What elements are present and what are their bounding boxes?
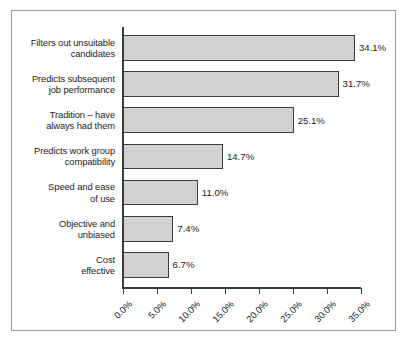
bar-chart-plot-area: 0.0%5.0%10.0%15.0%20.0%25.0%30.0%35.0% F… bbox=[12, 11, 397, 332]
x-axis-tick bbox=[361, 288, 362, 294]
bar bbox=[123, 71, 339, 97]
bar bbox=[123, 107, 294, 133]
category-label: Filters out unsuitable candidates bbox=[31, 37, 115, 59]
bar bbox=[123, 180, 198, 206]
bar-value-label: 25.1% bbox=[298, 115, 325, 126]
bar bbox=[123, 252, 169, 278]
x-axis-tick bbox=[327, 288, 328, 294]
x-axis-tick bbox=[259, 288, 260, 294]
category-label: Cost effective bbox=[81, 254, 115, 276]
bar-value-label: 11.0% bbox=[202, 187, 229, 198]
x-axis-tick bbox=[123, 288, 124, 294]
bar-value-label: 14.7% bbox=[227, 151, 254, 162]
category-label: Predicts subsequent job performance bbox=[32, 73, 115, 95]
bar-value-label: 7.4% bbox=[177, 223, 199, 234]
category-label: Objective and unbiased bbox=[59, 218, 115, 240]
bar bbox=[123, 144, 223, 170]
bar-value-label: 31.7% bbox=[343, 78, 370, 89]
chart-frame: 0.0%5.0%10.0%15.0%20.0%25.0%30.0%35.0% F… bbox=[11, 10, 396, 331]
category-label: Speed and ease of use bbox=[48, 181, 115, 203]
x-axis-tick bbox=[191, 288, 192, 294]
bar bbox=[123, 216, 173, 242]
x-axis-tick bbox=[157, 288, 158, 294]
bar-value-label: 6.7% bbox=[173, 259, 195, 270]
bar bbox=[123, 35, 355, 61]
x-axis-tick bbox=[225, 288, 226, 294]
category-label: Predicts work group compatibility bbox=[34, 145, 115, 167]
x-axis-tick bbox=[293, 288, 294, 294]
category-label: Tradition – have always had them bbox=[46, 109, 115, 131]
bar-value-label: 34.1% bbox=[359, 42, 386, 53]
